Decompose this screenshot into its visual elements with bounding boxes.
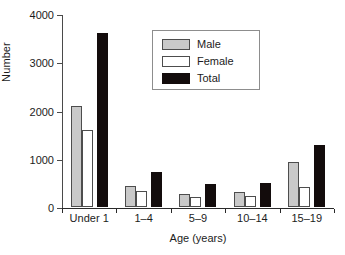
bar-total	[260, 183, 271, 207]
legend-label-female: Female	[197, 55, 234, 67]
bar-male	[288, 162, 299, 207]
x-tick-label: 15–19	[292, 212, 323, 224]
x-tick-label: Under 1	[70, 212, 109, 224]
y-axis-title: Number	[0, 22, 16, 102]
bar-male	[125, 186, 136, 207]
bar-male	[179, 194, 190, 207]
bar-total	[97, 33, 108, 207]
y-tick-label: 0	[48, 202, 54, 214]
legend-swatch-total-icon	[162, 73, 190, 84]
bar-female	[82, 130, 93, 207]
legend: Male Female Total	[152, 30, 260, 90]
legend-swatch-male-icon	[162, 39, 190, 50]
legend-swatch-female-icon	[162, 56, 190, 67]
legend-item-female: Female	[162, 54, 234, 68]
x-tick-mark	[116, 209, 117, 213]
bar-group	[280, 14, 334, 207]
bar-male	[71, 106, 82, 207]
bar-female	[190, 197, 201, 207]
legend-item-male: Male	[162, 37, 221, 51]
y-tick-label: 1000	[30, 154, 54, 166]
bar-total	[151, 172, 162, 207]
bar-total	[314, 145, 325, 207]
bar-male	[234, 192, 245, 207]
legend-label-male: Male	[197, 38, 221, 50]
bar-group	[62, 14, 116, 207]
x-tick-label: 1–4	[134, 212, 152, 224]
bar-total	[205, 184, 216, 207]
x-axis-line	[62, 208, 334, 209]
y-tick-label: 4000	[30, 9, 54, 21]
x-tick-mark	[225, 209, 226, 213]
legend-item-total: Total	[162, 71, 220, 85]
x-tick-label: 10–14	[237, 212, 268, 224]
x-axis-title: Age (years)	[62, 232, 334, 244]
y-tick-label: 2000	[30, 106, 54, 118]
bar-female	[136, 191, 147, 207]
bar-female	[245, 196, 256, 207]
bar-chart-figure: Number 01000200030004000 Under 11–45–910…	[0, 0, 345, 255]
bar-female	[299, 187, 310, 207]
x-tick-mark	[280, 209, 281, 213]
x-tick-mark	[334, 209, 335, 213]
x-tick-label: 5–9	[189, 212, 207, 224]
x-tick-mark	[171, 209, 172, 213]
y-tick-label: 3000	[30, 57, 54, 69]
x-tick-mark	[62, 209, 63, 213]
legend-label-total: Total	[197, 72, 220, 84]
